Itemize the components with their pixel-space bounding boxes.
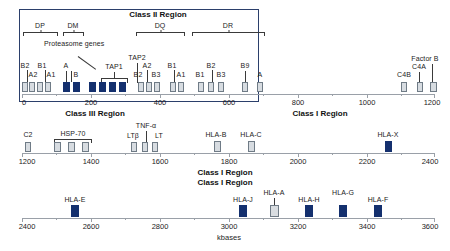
gene-label-a2-dp: A2 xyxy=(29,71,38,79)
axis-tick xyxy=(332,218,333,220)
axis-tick xyxy=(194,153,195,155)
gene-box xyxy=(82,142,89,152)
axis-tick xyxy=(401,94,402,96)
class-i-region-title-row2: Class I Region xyxy=(197,168,252,177)
gene-box xyxy=(99,82,106,92)
gene-box xyxy=(138,82,144,92)
leader-tap1-bar xyxy=(101,78,127,79)
axis-tick-label: 200 xyxy=(85,99,98,107)
axis-tick-label: 2600 xyxy=(83,223,100,231)
gene-label-a-dr: A xyxy=(258,71,263,79)
gene-box xyxy=(270,205,279,217)
axis-tick-label: 400 xyxy=(154,99,167,107)
gene-box xyxy=(198,82,204,92)
axis-tick-label: 800 xyxy=(292,99,305,107)
gene-label-a1-dp: A1 xyxy=(47,71,56,79)
axis-tick xyxy=(263,153,264,155)
gene-label-lt: LT xyxy=(155,132,163,140)
axis-tick xyxy=(332,153,333,155)
gene-label-b2-dr: B2 xyxy=(207,62,216,70)
gene-label-b-dm: B xyxy=(74,71,79,79)
gene-label-a2-dq: A2 xyxy=(143,62,152,70)
gene-box xyxy=(208,82,214,92)
gene-box xyxy=(142,142,148,152)
mhc-gene-map-figure: Class II Region DP DM DQ DR Proteasome g… xyxy=(0,0,450,251)
axis-unit-label: kbases xyxy=(217,233,241,242)
gene-label-c4a: C4A xyxy=(412,63,426,71)
gene-box xyxy=(119,82,126,92)
gene-box xyxy=(385,141,392,152)
bracket-dm xyxy=(63,32,84,36)
leader-b-dm xyxy=(71,71,72,82)
gene-label-hla-f: HLA-F xyxy=(368,196,389,204)
axis-tick xyxy=(56,94,57,96)
gene-box xyxy=(109,82,116,92)
gene-box xyxy=(430,82,437,92)
leader-b2-dr xyxy=(212,70,213,82)
gene-label-hla-g: HLA-G xyxy=(332,189,354,197)
gene-label-factor-b: Factor B xyxy=(411,55,438,63)
gene-box xyxy=(89,82,96,92)
gene-box xyxy=(22,82,28,92)
axis-tick-label: 2200 xyxy=(359,158,376,166)
gene-label-c2: C2 xyxy=(23,131,32,139)
leader-b9-dr xyxy=(245,71,246,82)
gene-box xyxy=(154,82,160,92)
axis-tick-label: 2400 xyxy=(19,223,36,231)
gene-label-hla-e: HLA-E xyxy=(64,196,85,204)
axis-line-row-2 xyxy=(22,153,434,154)
gene-label-hla-b: HLA-B xyxy=(205,131,226,139)
axis-tick xyxy=(56,153,57,155)
class-i-region-title-row3: Class I Region xyxy=(197,178,252,187)
bracket-dp xyxy=(23,32,58,36)
axis-tick xyxy=(263,218,264,220)
gene-box xyxy=(54,142,61,152)
axis-tick-label: 2400 xyxy=(422,158,439,166)
bracket-label-dm: DM xyxy=(67,22,78,30)
gene-box xyxy=(239,205,247,217)
gene-box xyxy=(68,142,75,152)
leader-a2-dq xyxy=(147,70,148,82)
class-i-region-title-row1: Class I Region xyxy=(292,109,347,118)
leader-b1-dq xyxy=(174,70,175,82)
gene-label-ltbeta: LTβ xyxy=(127,132,139,140)
gene-box xyxy=(242,82,248,92)
gene-box xyxy=(45,82,51,92)
gene-box xyxy=(401,82,407,92)
axis-tick-label: 1200 xyxy=(424,99,441,107)
gene-label-a-dm: A xyxy=(64,62,69,70)
axis-tick xyxy=(332,94,333,96)
leader-a1-dp xyxy=(45,70,46,82)
axis-tick xyxy=(125,94,126,96)
class-ii-region-title: Class II Region xyxy=(129,10,186,19)
axis-tick-label: 2800 xyxy=(152,223,169,231)
gene-label-hla-a: HLA-A xyxy=(263,189,284,197)
gene-box xyxy=(71,205,79,217)
gene-box xyxy=(170,82,176,92)
axis-tick-label: 3000 xyxy=(221,223,238,231)
axis-tick-label: 1000 xyxy=(359,99,376,107)
bracket-label-dr: DR xyxy=(223,22,233,30)
axis-tick xyxy=(56,218,57,220)
bracket-dr xyxy=(192,32,265,36)
gene-box xyxy=(248,141,255,152)
bracket-label-dq: DQ xyxy=(155,22,166,30)
axis-tick-label: 1800 xyxy=(221,158,238,166)
class-iii-region-title: Class III Region xyxy=(65,109,125,118)
axis-tick-label: 1600 xyxy=(152,158,169,166)
gene-label-a1-dq: A1 xyxy=(177,71,186,79)
axis-tick-label: 3400 xyxy=(359,223,376,231)
gene-box xyxy=(152,142,158,152)
gene-label-b2-dq: B2 xyxy=(134,71,143,79)
gene-box xyxy=(37,82,43,92)
leader-c4a xyxy=(419,72,420,82)
gene-box xyxy=(25,142,31,152)
gene-box xyxy=(214,141,221,152)
leader-a-dm xyxy=(66,71,67,82)
gene-label-b3-dq: B3 xyxy=(152,71,161,79)
bracket-label-dp: DP xyxy=(35,22,45,30)
axis-tick-label: 600 xyxy=(223,99,236,107)
leader-a2-dp xyxy=(27,70,28,82)
gene-box xyxy=(131,142,137,152)
callout-label-tap1: TAP1 xyxy=(105,63,122,71)
